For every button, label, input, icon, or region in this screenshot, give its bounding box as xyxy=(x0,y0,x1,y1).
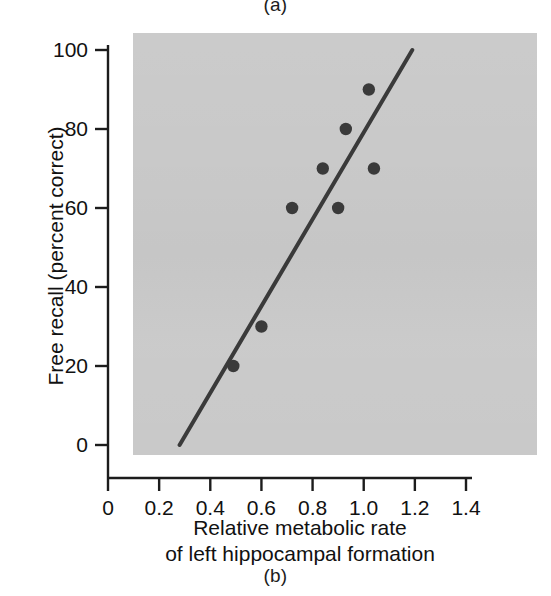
figure-container: (a) 020406080100 00.20.40.60.81.01.21.4 … xyxy=(0,0,551,596)
data-point-4 xyxy=(332,202,344,214)
data-point-0 xyxy=(227,360,239,372)
data-point-2 xyxy=(286,202,298,214)
x-axis-title-line-2: of left hippocampal formation xyxy=(90,541,510,567)
data-point-6 xyxy=(363,83,375,95)
x-axis-title: Relative metabolic rate of left hippocam… xyxy=(90,515,510,567)
figure-caption-b: (b) xyxy=(0,565,551,587)
y-axis-title: Free recall (percent correct) xyxy=(44,56,68,456)
fit-line-segment xyxy=(180,50,413,445)
data-point-1 xyxy=(255,320,267,332)
regression-line xyxy=(180,50,413,445)
data-point-7 xyxy=(368,162,380,174)
x-axis-title-line-1: Relative metabolic rate xyxy=(90,515,510,541)
data-point-5 xyxy=(340,123,352,135)
data-point-3 xyxy=(317,162,329,174)
